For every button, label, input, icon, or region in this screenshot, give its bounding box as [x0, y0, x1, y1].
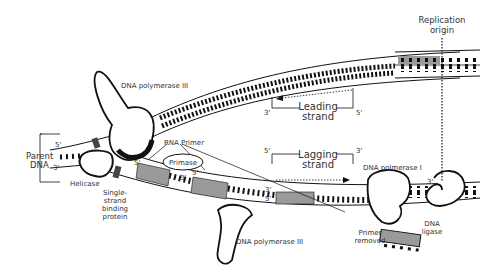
- primer1-3-prime: 3': [180, 174, 186, 182]
- lagging-3-prime: 3': [356, 147, 362, 155]
- dna-replication-diagram: Replication origin DNA polymerase III DN…: [0, 0, 502, 274]
- primer-removed-label-2: removed: [354, 237, 385, 245]
- helicase-label: Helicase: [70, 180, 100, 188]
- dna-polymerase-iii-bottom-label: DNA polymerase III: [236, 238, 303, 246]
- leading-3-prime: 3': [264, 109, 270, 117]
- rna-primer-2: [191, 177, 228, 199]
- primer2-5-prime: 5': [192, 169, 198, 177]
- ligase-3-prime: 3': [427, 178, 433, 186]
- okazaki-3-prime: 3': [265, 186, 271, 194]
- replication-origin-label-1: Replication: [418, 15, 465, 25]
- replication-origin-label-2: origin: [430, 25, 454, 35]
- ssb-label-4: protein: [103, 213, 128, 221]
- okazaki-5-prime: 5': [265, 195, 271, 203]
- ssb-protein-2: [113, 165, 122, 178]
- rna-primer-label: RNA Primer: [164, 139, 204, 147]
- helicase: [80, 151, 113, 177]
- dna-ligase: [426, 171, 464, 206]
- ssb-label-2: strand: [104, 197, 126, 205]
- rna-primer-3: [276, 192, 314, 204]
- dna-ligase-label-1: DNA: [424, 220, 440, 228]
- leading-5-prime: 5': [356, 109, 362, 117]
- ssb-label-3: binding: [102, 205, 128, 213]
- primase-label: Primase: [169, 159, 197, 167]
- leading-strand-label-2: strand: [302, 111, 334, 122]
- dna-polymerase-iii-bottom: [217, 205, 252, 264]
- primer1-5-prime: 5': [134, 159, 140, 167]
- parent-5-prime: 5': [55, 141, 61, 149]
- parent-dna-label-2: DNA: [30, 160, 49, 170]
- primer-removed-label-1: Primer: [359, 229, 382, 237]
- lagging-5-prime: 5': [264, 147, 270, 155]
- rna-primer-1: [136, 163, 170, 186]
- parent-3-prime: 3': [53, 164, 59, 172]
- dna-polymerase-iii-top-label: DNA polymerase III: [121, 82, 188, 90]
- dna-ligase-label-2: ligase: [422, 228, 443, 236]
- lagging-strand-label-2: strand: [302, 159, 334, 170]
- dna-polymerase-i-label: DNA polmerase I: [363, 164, 422, 172]
- dna-polymerase-i: [368, 170, 410, 224]
- ssb-label-1: Single-: [103, 189, 128, 197]
